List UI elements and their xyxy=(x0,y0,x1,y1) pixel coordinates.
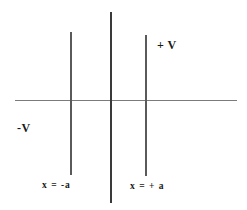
label-positive-voltage: + V xyxy=(157,39,177,51)
label-right-boundary: x = + a xyxy=(130,182,164,192)
vertical-line-right-boundary xyxy=(145,35,147,176)
vertical-line-center-axis xyxy=(110,12,112,203)
vertical-line-left-boundary xyxy=(70,32,72,175)
potential-well-diagram: + V -V x = -a x = + a xyxy=(0,0,247,210)
horizontal-axis-line xyxy=(15,100,237,101)
label-left-boundary: x = -a xyxy=(42,181,71,191)
label-negative-voltage: -V xyxy=(17,122,31,134)
